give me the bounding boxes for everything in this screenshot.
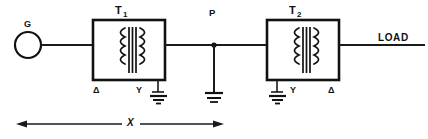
generator-symbol — [15, 32, 41, 58]
transformer-t1-primary-winding-label: Δ — [93, 86, 99, 95]
diagram-canvas — [0, 0, 428, 139]
transformer-t2-secondary-winding-label: Δ — [328, 86, 334, 95]
transformer-t1-label-sub: 1 — [122, 10, 128, 19]
circuit-diagram: G T1 Δ Y P T2 Y Δ LOAD X — [0, 0, 428, 139]
transformer-t2-label-main: T — [289, 4, 296, 16]
dimension-x-arrowhead-left — [16, 121, 27, 128]
dimension-x-arrowhead-right — [213, 121, 224, 128]
dimension-x-label: X — [127, 118, 134, 128]
node-p-label: P — [209, 8, 215, 18]
generator-label: G — [24, 20, 31, 29]
transformer-t2-label: T2 — [289, 5, 302, 19]
transformer-t1-label-main: T — [115, 4, 122, 16]
transformer-t1-secondary-winding-label: Y — [136, 86, 142, 95]
transformer-t1-label: T1 — [115, 5, 128, 19]
load-label: LOAD — [378, 33, 409, 43]
transformer-t2-label-sub: 2 — [296, 10, 302, 19]
transformer-t2-primary-winding-label: Y — [290, 86, 296, 95]
